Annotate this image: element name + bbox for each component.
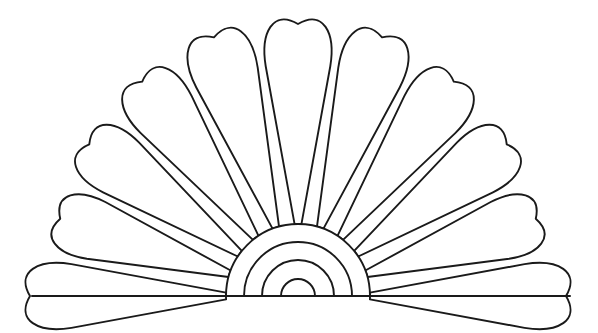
coloring-page-canvas: Black and white outline drawing of a fol…	[0, 0, 598, 333]
fan-line-art: Black and white outline drawing of a fol…	[0, 0, 598, 333]
